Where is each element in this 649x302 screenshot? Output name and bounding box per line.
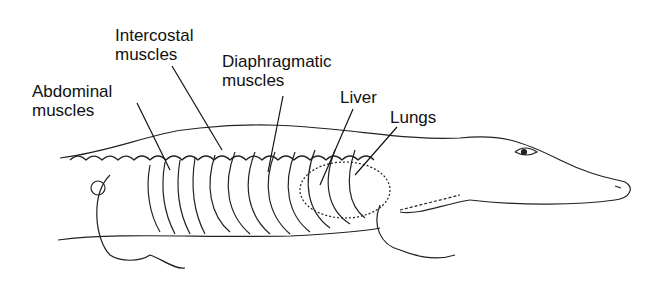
label-intercostal-muscles: Intercostal muscles <box>115 26 193 64</box>
label-liver: Liver <box>340 88 377 107</box>
label-diaphragmatic-muscles: Diaphragmatic muscles <box>222 52 332 90</box>
label-lungs: Lungs <box>390 108 436 127</box>
label-abdominal-muscles: Abdominal muscles <box>32 82 112 120</box>
alligator-illustration <box>0 0 649 302</box>
